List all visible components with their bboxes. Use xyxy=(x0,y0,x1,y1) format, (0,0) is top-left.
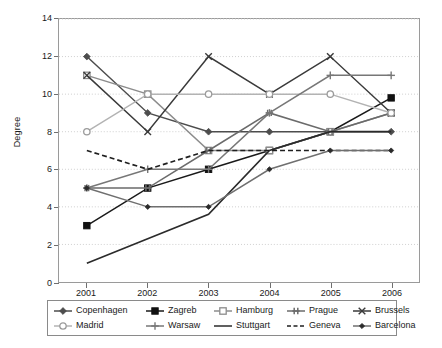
legend-label: Stuttgart xyxy=(236,321,270,330)
marker-square-filled xyxy=(152,307,158,313)
marker-circle-open xyxy=(84,129,90,135)
legend-item-stuttgart[interactable]: Stuttgart xyxy=(210,321,283,331)
x-tick-mark xyxy=(147,283,148,288)
x-tick-label: 2006 xyxy=(372,288,412,298)
legend-swatch-none xyxy=(213,321,233,331)
marker-diamond-small xyxy=(389,148,394,153)
x-tick-mark xyxy=(86,283,87,288)
legend-item-zagreb[interactable]: Zagreb xyxy=(142,306,210,316)
legend-swatch-plus xyxy=(145,321,165,331)
series-line xyxy=(87,151,391,207)
x-tick-mark xyxy=(270,283,271,288)
legend-item-copenhagen[interactable]: Copenhagen xyxy=(50,306,142,316)
legend-item-madrid[interactable]: Madrid xyxy=(50,321,142,331)
legend-label: Hamburg xyxy=(236,306,273,315)
y-tick-label: 6 xyxy=(28,164,52,174)
y-tick-label: 0 xyxy=(28,278,52,288)
y-tick-label: 2 xyxy=(28,240,52,250)
series-line xyxy=(87,75,391,150)
legend-label: Zagreb xyxy=(168,306,197,315)
marker-circle-open xyxy=(205,91,211,97)
legend-item-prague[interactable]: Prague xyxy=(283,306,349,316)
marker-square-filled xyxy=(84,222,90,228)
legend-item-barcelona[interactable]: Barcelona xyxy=(349,321,405,331)
marker-diamond-small xyxy=(145,204,150,209)
legend-label: Copenhagen xyxy=(76,306,128,315)
x-tick-label: 2003 xyxy=(188,288,228,298)
legend-marker xyxy=(359,323,364,328)
legend-marker xyxy=(152,307,158,313)
y-tick-mark xyxy=(54,283,59,284)
marker-circle-open xyxy=(327,91,333,97)
legend-swatch-x-cross xyxy=(352,306,372,316)
legend-label: Warsaw xyxy=(168,321,200,330)
legend-swatch-filled-square xyxy=(145,306,165,316)
legend-item-brussels[interactable]: Brussels xyxy=(349,306,405,316)
x-tick-label: 2001 xyxy=(66,288,106,298)
legend-item-hamburg[interactable]: Hamburg xyxy=(210,306,283,316)
y-tick-label: 8 xyxy=(28,127,52,137)
legend-label: Geneva xyxy=(309,321,341,330)
marker-circle-open xyxy=(388,110,394,116)
marker-square-filled xyxy=(388,95,394,101)
y-tick-label: 4 xyxy=(28,202,52,212)
legend-swatch-diamond xyxy=(53,306,73,316)
marker-diamond xyxy=(205,128,212,135)
legend-swatch-none-dashed xyxy=(286,321,306,331)
legend-swatch-open-circle xyxy=(53,321,73,331)
marker-circle-open xyxy=(145,91,151,97)
x-tick-label: 2004 xyxy=(250,288,290,298)
y-tick-label: 14 xyxy=(28,13,52,23)
legend: CopenhagenZagrebHamburgPragueBrusselsMad… xyxy=(47,300,397,336)
legend-marker xyxy=(60,322,66,328)
legend-label: Brussels xyxy=(375,306,410,315)
legend-swatch-cross-bar xyxy=(286,306,306,316)
marker-diamond-small xyxy=(328,148,333,153)
legend-marker xyxy=(151,322,159,330)
y-axis-title: Degree xyxy=(12,117,22,148)
marker-circle-open xyxy=(60,322,66,328)
legend-marker xyxy=(292,307,299,313)
marker-diamond xyxy=(266,128,273,135)
legend-swatch-open-square xyxy=(213,306,233,316)
line-chart: Degree 14121086420 200120022003200420052… xyxy=(0,0,442,348)
legend-marker xyxy=(220,307,226,313)
x-tick-label: 2005 xyxy=(311,288,351,298)
marker-square-open xyxy=(220,307,226,313)
y-tick-label: 10 xyxy=(28,89,52,99)
x-tick-mark xyxy=(331,283,332,288)
marker-diamond xyxy=(60,307,67,314)
marker-diamond-small xyxy=(359,323,364,328)
x-tick-label: 2002 xyxy=(127,288,167,298)
legend-label: Barcelona xyxy=(375,321,416,330)
legend-swatch-small-diamond xyxy=(352,321,372,331)
x-tick-mark xyxy=(392,283,393,288)
series-canvas xyxy=(59,19,419,282)
plot-area xyxy=(58,18,420,283)
y-tick-label: 12 xyxy=(28,51,52,61)
legend-item-geneva[interactable]: Geneva xyxy=(283,321,349,331)
legend-label: Madrid xyxy=(76,321,104,330)
legend-marker xyxy=(60,307,67,314)
x-tick-mark xyxy=(208,283,209,288)
series-barcelona xyxy=(84,148,393,210)
legend-item-warsaw[interactable]: Warsaw xyxy=(142,321,210,331)
marker-circle-open xyxy=(266,91,272,97)
legend-label: Prague xyxy=(309,306,338,315)
